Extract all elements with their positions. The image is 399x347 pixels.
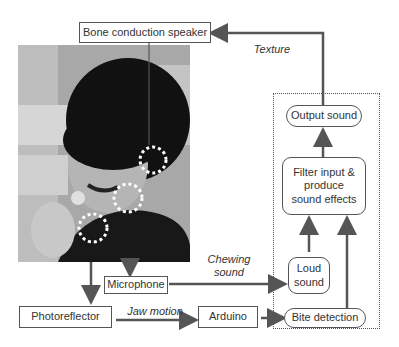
bite-detection-node: Bite detection: [284, 308, 366, 328]
loud-sound-node: Loud sound: [288, 257, 330, 294]
output-sound-node: Output sound: [286, 105, 362, 127]
jaw-motion-label: Jaw motion: [122, 305, 188, 318]
arduino-node: Arduino: [198, 306, 258, 328]
filter-node: Filter input & produce sound effects: [282, 157, 366, 215]
microphone-node: Microphone: [104, 276, 168, 294]
texture-label: Texture: [247, 43, 297, 56]
photoreflector-node: Photoreflector: [19, 306, 112, 328]
chewing-sound-label: Chewing sound: [203, 253, 255, 279]
bone-conduction-speaker-node: Bone conduction speaker: [79, 22, 211, 43]
